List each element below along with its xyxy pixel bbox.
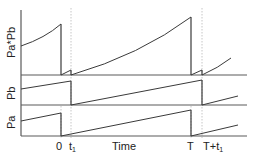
waveform-diagram: Pa*Pb Pb Pa 0 t1 Time T T+t1 <box>0 0 253 154</box>
pb-waveform <box>21 80 238 105</box>
x-label-t1: t1 <box>69 140 76 153</box>
y-label-product: Pa*Pb <box>5 27 17 58</box>
y-label-pb: Pb <box>5 87 17 100</box>
y-label-pa: Pa <box>5 115 17 129</box>
x-label-T-plus-t1: T+t1 <box>203 140 223 153</box>
x-label-T: T <box>187 140 194 152</box>
pa-waveform <box>21 110 238 136</box>
time-guides <box>61 8 202 138</box>
x-label-zero: 0 <box>56 140 62 152</box>
product-waveform <box>21 17 231 75</box>
x-label-time: Time <box>112 140 136 152</box>
